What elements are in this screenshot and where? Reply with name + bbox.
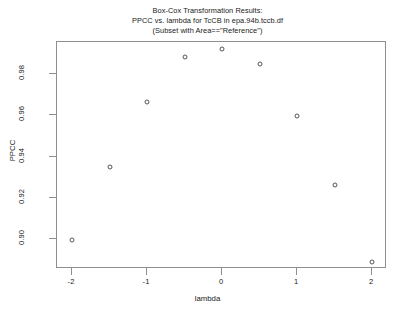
data-point <box>295 113 300 118</box>
chart-title-line-2: PPCC vs. lambda for TcCB in epa.94b.tccb… <box>0 16 415 26</box>
y-axis-tick <box>49 238 56 239</box>
y-axis-tick <box>49 114 56 115</box>
data-point <box>332 183 337 188</box>
x-axis-tick <box>71 268 72 275</box>
data-point <box>257 62 262 67</box>
y-axis-tick-label: 0.98 <box>17 52 26 92</box>
y-axis-tick-label: 0.94 <box>17 135 26 175</box>
y-axis-tick <box>49 73 56 74</box>
y-axis-tick-label: 0.96 <box>17 94 26 134</box>
x-axis-tick <box>146 268 147 275</box>
x-axis-tick-label: -2 <box>56 277 86 286</box>
x-axis-label: lambda <box>0 294 415 303</box>
data-points-layer <box>57 42 387 269</box>
x-axis-tick-label: 1 <box>281 277 311 286</box>
data-point <box>182 55 187 60</box>
x-axis-tick <box>296 268 297 275</box>
x-axis-tick-label: 2 <box>356 277 386 286</box>
y-axis-label: PPCC <box>8 121 17 181</box>
data-point <box>145 99 150 104</box>
data-point <box>107 165 112 170</box>
data-point <box>370 259 375 264</box>
boxcox-ppcc-scatter-plot: Box-Cox Transformation Results: PPCC vs.… <box>0 0 415 320</box>
x-axis-tick <box>221 268 222 275</box>
plot-area <box>56 41 386 268</box>
x-axis-tick-label: -1 <box>131 277 161 286</box>
y-axis-tick <box>49 156 56 157</box>
chart-title: Box-Cox Transformation Results: PPCC vs.… <box>0 6 415 37</box>
chart-title-line-3: (Subset with Area=="Reference") <box>0 26 415 36</box>
y-axis-tick-label: 0.92 <box>17 176 26 216</box>
data-point <box>70 238 75 243</box>
y-axis-tick-label: 0.90 <box>17 218 26 258</box>
x-axis-tick-label: 0 <box>206 277 236 286</box>
x-axis-tick <box>371 268 372 275</box>
data-point <box>220 47 225 52</box>
y-axis-tick <box>49 197 56 198</box>
chart-title-line-1: Box-Cox Transformation Results: <box>0 6 415 16</box>
